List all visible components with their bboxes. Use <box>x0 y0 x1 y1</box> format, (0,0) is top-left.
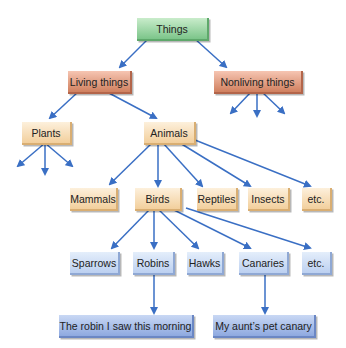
node-birds: Birds <box>135 188 182 211</box>
node-plants: Plants <box>22 122 72 145</box>
node-insects: Insects <box>248 188 290 211</box>
node-hawks: Hawks <box>187 252 224 275</box>
node-nonliving-things: Nonliving things <box>214 71 303 94</box>
node-sparrows: Sparrows <box>70 252 120 275</box>
hierarchy-diagram: Things Living things Nonliving things Pl… <box>0 0 346 348</box>
node-mammals: Mammals <box>70 188 118 211</box>
node-robins: Robins <box>133 252 175 275</box>
node-canary-instance: My aunt’s pet canary <box>213 315 316 338</box>
node-birds-etc: etc. <box>302 252 332 275</box>
node-living-things: Living things <box>68 71 132 94</box>
node-things: Things <box>137 18 209 41</box>
node-animals-etc: etc. <box>302 188 332 211</box>
node-canaries: Canaries <box>239 252 289 275</box>
node-reptiles: Reptiles <box>197 188 238 211</box>
node-animals: Animals <box>144 122 196 145</box>
node-robin-instance: The robin I saw this morning <box>59 315 194 338</box>
connector-arrows <box>0 0 346 348</box>
